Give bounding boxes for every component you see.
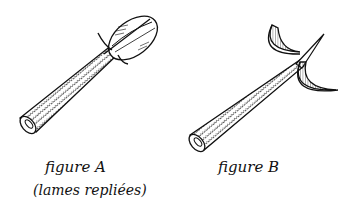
handle-b <box>190 60 304 150</box>
crescent-blade-upper <box>270 25 300 52</box>
figure-a-caption: (lames repliées) <box>33 182 147 198</box>
handle-a <box>20 48 116 132</box>
figure-a-drawing <box>17 7 166 136</box>
figure-b-drawing <box>186 25 338 155</box>
figure-b-label: figure B <box>218 158 279 176</box>
figure-a-label: figure A <box>45 158 106 176</box>
